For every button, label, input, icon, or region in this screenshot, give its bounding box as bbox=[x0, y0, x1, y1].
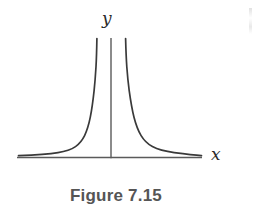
figure-container: y x Figure 7.15 bbox=[0, 0, 262, 222]
figure-caption: Figure 7.15 bbox=[0, 186, 232, 206]
curve-right-branch bbox=[126, 39, 202, 156]
x-axis-label: x bbox=[211, 146, 221, 163]
y-axis-label: y bbox=[102, 10, 112, 27]
curve-left-branch bbox=[19, 39, 97, 156]
scan-artifact bbox=[249, 8, 252, 34]
